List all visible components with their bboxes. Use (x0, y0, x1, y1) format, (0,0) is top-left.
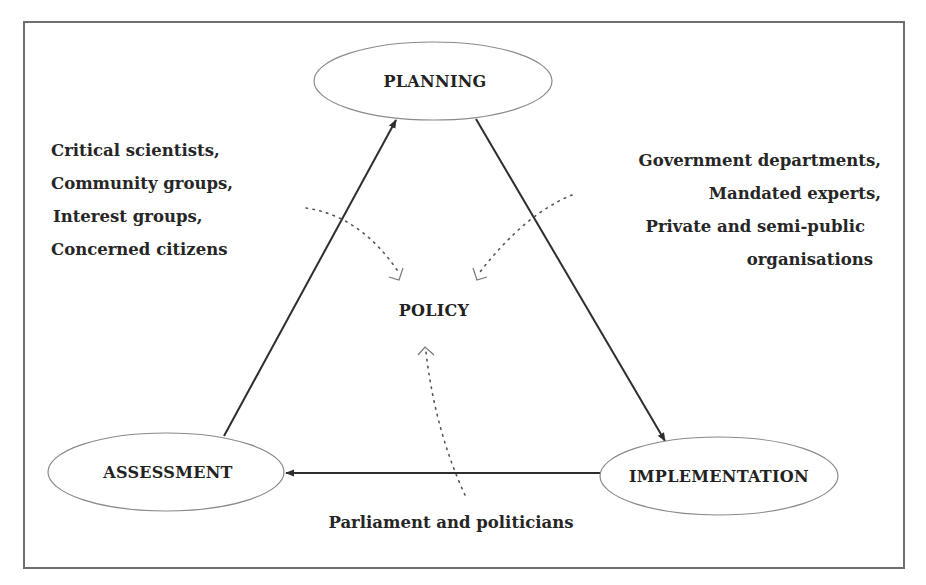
arrow-head-right-icon (473, 268, 487, 280)
policy-label: POLICY (399, 301, 470, 320)
node-planning: PLANNING (314, 42, 552, 120)
node-assessment: ASSESSMENT (48, 433, 284, 511)
node-implementation: IMPLEMENTATION (600, 437, 838, 515)
stakeholders-right: Government departments, Mandated experts… (639, 151, 881, 269)
stakeholder-left-line: Interest groups, (53, 207, 202, 226)
stakeholder-right-line: organisations (747, 250, 873, 269)
stakeholders-left: Critical scientists, Community groups, I… (51, 141, 233, 259)
implementation-label: IMPLEMENTATION (629, 467, 809, 486)
stakeholder-left-line: Critical scientists, (51, 141, 220, 160)
planning-label: PLANNING (383, 72, 486, 91)
stakeholder-right-line: Mandated experts, (709, 184, 881, 203)
stakeholder-left-line: Community groups, (51, 174, 233, 193)
influence-left-to-policy (306, 208, 403, 280)
stakeholder-left-line: Concerned citizens (51, 240, 228, 259)
arrow-planning-to-implementation (476, 119, 665, 441)
stakeholder-bottom: Parliament and politicians (328, 513, 573, 532)
influence-right-to-policy (473, 195, 572, 280)
arrow-assessment-to-planning (224, 120, 396, 436)
stakeholder-right-line: Government departments, (639, 151, 881, 170)
stakeholder-right-line: Private and semi-public (646, 217, 866, 236)
assessment-label: ASSESSMENT (102, 463, 233, 482)
policy-cycle-diagram: PLANNING IMPLEMENTATION ASSESSMENT POLIC… (0, 0, 926, 585)
